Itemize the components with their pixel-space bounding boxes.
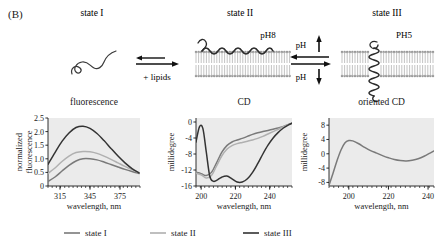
y-tick-label: 0 <box>321 150 325 159</box>
chart-panel-3: oriented CD840-4-8200220240wavelength, n… <box>299 97 434 211</box>
ph-down-label: pH <box>296 72 306 82</box>
y-tick-label: 1.0 <box>34 155 44 164</box>
y-tick-label: 0.5 <box>34 168 44 177</box>
x-tick-label: 345 <box>84 192 96 201</box>
x-axis-label: wavelength, nm <box>217 201 272 211</box>
state-ii-title: state II <box>227 8 253 18</box>
random-coil-peptide-icon <box>72 51 116 74</box>
state-iii-ph-label: PH5 <box>396 30 413 40</box>
y-tick-label: -12 <box>181 166 192 175</box>
x-tick-label: 220 <box>229 192 241 201</box>
y-tick-label: -4 <box>318 164 325 173</box>
x-tick-label: 200 <box>343 192 355 201</box>
panel-letter: (B) <box>8 8 23 21</box>
y-axis-label: fluorescence <box>24 130 34 173</box>
ph-equilibrium-arrows <box>290 54 331 67</box>
y-axis-label: millidegree <box>166 132 176 171</box>
y-tick-label: -8 <box>318 178 325 187</box>
y-tick-label: 4 <box>321 135 325 144</box>
state-iii-title: state III <box>372 8 401 18</box>
y-tick-label: 0 <box>188 118 192 127</box>
x-axis-label: wavelength, nm <box>354 201 409 211</box>
state-ii-ph-label: pH8 <box>260 30 276 40</box>
chart-title-1: fluorescence <box>70 97 118 107</box>
x-tick-label: 240 <box>422 192 434 201</box>
x-tick-label: 315 <box>54 192 66 201</box>
y-tick-label: 2.5 <box>34 114 44 123</box>
x-tick-label: 375 <box>114 192 126 201</box>
legend-label-1: state I <box>85 228 107 238</box>
y-tick-label: 2.0 <box>34 128 44 137</box>
y-tick-label: 8 <box>321 121 325 130</box>
figure-panel-b: (B) state I state II state III + lipids … <box>0 0 441 246</box>
state-ii-bilayer-icon <box>195 39 291 77</box>
chart-panel-2: CD0-4-8-12-16200220240wavelength, nmmill… <box>166 97 292 211</box>
plot-background <box>329 118 434 186</box>
legend-label-3: state III <box>264 228 292 238</box>
state-i-title: state I <box>81 8 104 18</box>
y-tick-label: -4 <box>185 134 192 143</box>
y-tick-label: 0 <box>40 182 44 191</box>
y-axis-label: normalized <box>14 132 24 171</box>
chart-title-3: oriented CD <box>358 97 405 107</box>
y-axis-label: millidegree <box>299 132 309 171</box>
x-tick-label: 220 <box>382 192 394 201</box>
lipids-label: + lipids <box>143 72 171 82</box>
y-tick-label: 1.5 <box>34 141 44 150</box>
chart-title-2: CD <box>237 97 250 107</box>
ph-down-arrow-icon <box>316 69 321 85</box>
y-tick-label: -16 <box>181 182 192 191</box>
x-axis-label: wavelength, nm <box>67 201 122 211</box>
y-tick-label: -8 <box>185 150 192 159</box>
ph-up-arrow-icon <box>316 35 321 52</box>
ph-up-label: pH <box>296 40 306 50</box>
lipids-equilibrium-arrows <box>136 55 179 66</box>
legend: state Istate IIstate III <box>64 228 292 238</box>
x-tick-label: 240 <box>264 192 276 201</box>
legend-label-2: state II <box>171 228 196 238</box>
chart-panel-1: fluorescence00.51.01.52.02.5315345375wav… <box>14 97 140 211</box>
state-iii-bilayer-icon <box>341 41 435 101</box>
x-tick-label: 200 <box>195 192 207 201</box>
